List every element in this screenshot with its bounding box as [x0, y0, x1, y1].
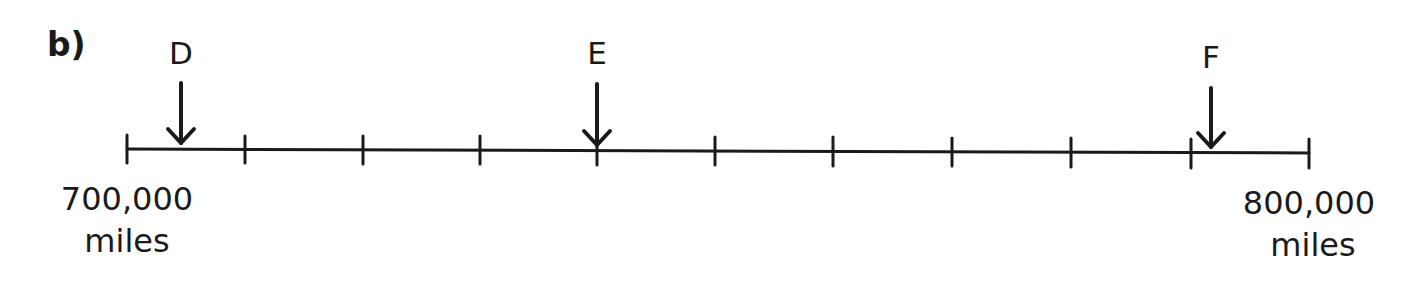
end-unit: miles	[1251, 224, 1375, 266]
arrow-down-icon-e	[584, 84, 610, 145]
end-label: 800,000 miles	[1243, 182, 1375, 266]
end-value: 800,000	[1243, 182, 1375, 224]
start-label: 700,000 miles	[61, 178, 193, 262]
number-line-axis	[127, 149, 1309, 153]
number-line	[0, 0, 1401, 289]
arrow-down-icon-d	[168, 83, 194, 143]
arrow-down-icon-f	[1198, 88, 1224, 147]
start-unit: miles	[61, 220, 193, 262]
start-value: 700,000	[61, 178, 193, 220]
